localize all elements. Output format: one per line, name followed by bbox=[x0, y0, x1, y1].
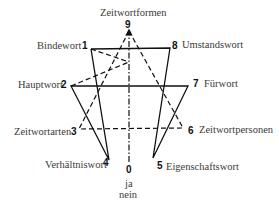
label-umstandswort: Umstandswort bbox=[182, 40, 243, 51]
node-5: 5 bbox=[157, 161, 163, 171]
enneagram-diagram bbox=[0, 0, 279, 208]
label-zeitwortarten: Zeitwortarten bbox=[14, 127, 71, 138]
node-1: 1 bbox=[82, 41, 88, 51]
node-0: 0 bbox=[126, 165, 132, 175]
node-3: 3 bbox=[71, 127, 77, 137]
label-zeitwortpersonen: Zeitwortpersonen bbox=[199, 125, 273, 136]
node-2: 2 bbox=[61, 80, 67, 90]
node-6: 6 bbox=[188, 126, 194, 136]
label-verhaeltniswort: Verhältniswort bbox=[45, 160, 107, 171]
dashed-triangle bbox=[79, 31, 183, 129]
node-9: 9 bbox=[125, 20, 131, 30]
label-hauptwort: Hauptwort bbox=[18, 80, 63, 91]
label-zeitwortformen: Zeitwortformen bbox=[100, 8, 166, 19]
dashed-line-1-7 bbox=[91, 49, 129, 62]
node-4: 4 bbox=[103, 158, 109, 168]
label-nein: nein bbox=[119, 190, 137, 201]
label-fuerwort: Fürwort bbox=[204, 79, 238, 90]
label-bindewort: Bindewort bbox=[37, 41, 81, 52]
label-ja: ja bbox=[125, 179, 133, 190]
node-7: 7 bbox=[193, 79, 199, 89]
node-8: 8 bbox=[172, 41, 178, 51]
dashed-line-2-8 bbox=[71, 62, 129, 86]
label-eigenschaftswort: Eigenschaftswort bbox=[166, 162, 239, 173]
